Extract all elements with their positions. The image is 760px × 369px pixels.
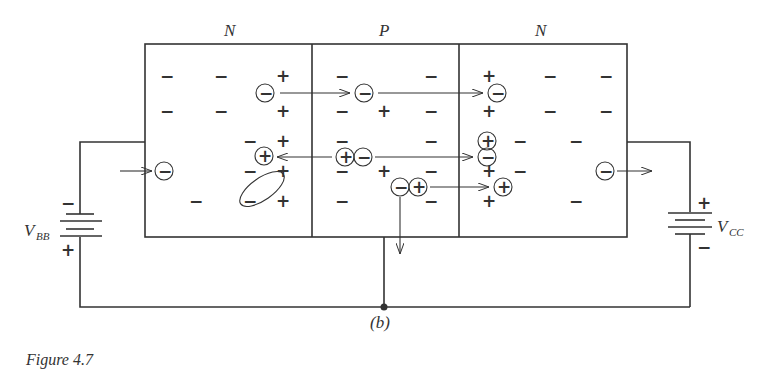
svg-text:−: − <box>243 131 257 151</box>
svg-text:−: − <box>259 83 273 103</box>
vcc-negative-sign: − <box>697 237 711 257</box>
svg-text:−: − <box>243 191 257 211</box>
subfigure-label: (b) <box>370 313 390 332</box>
figure-caption: Figure 4.7 <box>26 351 93 369</box>
svg-text:−: − <box>357 147 371 167</box>
vbb-positive-sign: + <box>61 240 75 260</box>
battery-vcc <box>668 213 712 234</box>
vbb-subscript: BB <box>36 230 50 242</box>
svg-text:+: + <box>339 147 353 167</box>
svg-text:−: − <box>243 161 257 181</box>
svg-text:+: + <box>276 101 290 121</box>
svg-text:−: − <box>599 66 613 86</box>
svg-text:+: + <box>258 146 272 166</box>
region-label-base: P <box>378 21 389 40</box>
svg-text:−: − <box>335 191 349 211</box>
svg-text:−: − <box>335 101 349 121</box>
wire-bottom-return <box>80 237 690 307</box>
region-label-emitter: N <box>223 21 237 40</box>
vcc-positive-sign: + <box>697 193 711 213</box>
svg-text:−: − <box>160 66 174 86</box>
svg-text:−: − <box>214 101 228 121</box>
ground-junction-dot <box>381 304 388 311</box>
battery-vbb <box>60 214 102 236</box>
svg-text:+: + <box>377 161 391 181</box>
svg-text:+: + <box>276 161 290 181</box>
svg-text:+: + <box>276 191 290 211</box>
svg-text:−: − <box>160 101 174 121</box>
region-label-collector: N <box>534 21 548 40</box>
svg-text:+: + <box>377 101 391 121</box>
wire-collector-to-vcc <box>627 142 690 212</box>
svg-text:+: + <box>482 191 496 211</box>
svg-text:+: + <box>276 131 290 151</box>
svg-text:+: + <box>412 177 426 197</box>
svg-text:−: − <box>569 191 583 211</box>
svg-text:−: − <box>158 161 172 181</box>
svg-text:−: − <box>569 131 583 151</box>
svg-text:−: − <box>513 161 527 181</box>
svg-text:+: + <box>276 66 290 86</box>
svg-text:+: + <box>482 101 496 121</box>
svg-text:−: − <box>214 66 228 86</box>
svg-text:−: − <box>189 191 203 211</box>
svg-text:−: − <box>335 66 349 86</box>
svg-text:+: + <box>497 177 511 197</box>
svg-text:−: − <box>358 83 372 103</box>
svg-text:−: − <box>599 101 613 121</box>
svg-text:−: − <box>543 66 557 86</box>
svg-text:−: − <box>394 177 408 197</box>
svg-text:−: − <box>424 66 438 86</box>
svg-text:−: − <box>481 147 495 167</box>
vcc-subscript: CC <box>729 226 744 238</box>
svg-text:−: − <box>599 161 613 181</box>
svg-text:−: − <box>543 101 557 121</box>
svg-text:−: − <box>513 131 527 151</box>
vbb-negative-sign: − <box>61 193 75 213</box>
wire-emitter-to-vbb <box>80 142 145 214</box>
svg-text:−: − <box>424 101 438 121</box>
svg-text:−: − <box>491 83 505 103</box>
svg-text:−: − <box>424 131 438 151</box>
